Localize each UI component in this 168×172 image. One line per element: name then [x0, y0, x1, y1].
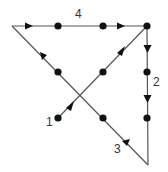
segment-label-4: 4: [75, 7, 82, 21]
nine-dot-diagram: 4 2 1 3: [0, 0, 168, 172]
segment-label-1: 1: [46, 115, 53, 129]
arrow-right-icon: [117, 23, 125, 30]
dot: [54, 68, 61, 75]
arrow-down-icon: [144, 45, 152, 53]
dot: [143, 114, 150, 121]
dot: [99, 114, 106, 121]
arrow-down-icon: [144, 95, 152, 103]
diagram-svg: 4 2 1 3: [0, 0, 168, 172]
dot: [143, 22, 150, 29]
segment-label-3: 3: [114, 142, 121, 156]
dot: [99, 22, 106, 29]
dot: [54, 114, 61, 121]
segment-label-2: 2: [153, 75, 160, 89]
arrow-up-right-icon: [66, 101, 74, 111]
dot: [99, 68, 106, 75]
arrow-up-right-icon: [117, 46, 125, 56]
dot: [54, 22, 61, 29]
dot: [143, 68, 150, 75]
arrow-right-icon: [25, 23, 33, 30]
